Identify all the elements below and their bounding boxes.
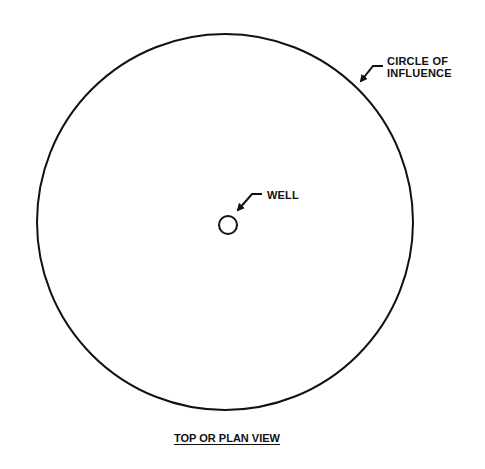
well-leader-arrow <box>238 194 262 210</box>
circle-of-influence-label-line2: INFLUENCE <box>387 67 452 79</box>
circle-of-influence <box>37 34 413 410</box>
well-label: WELL <box>267 189 299 201</box>
circle-of-influence-leader-arrow <box>361 66 383 81</box>
diagram-caption: TOP OR PLAN VIEW <box>174 432 280 444</box>
circle-of-influence-label: CIRCLE OF INFLUENCE <box>387 55 452 79</box>
well-circle <box>219 216 237 234</box>
circle-of-influence-label-line1: CIRCLE OF <box>387 55 452 67</box>
